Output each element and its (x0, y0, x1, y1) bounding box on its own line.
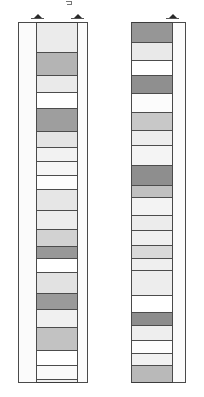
left-panel-bed-6 (37, 132, 77, 148)
left-panel-bed-10 (37, 190, 77, 211)
left-panel-bed-11 (37, 211, 77, 230)
right-panel-bed-20 (132, 341, 172, 354)
left-panel-bed-5 (37, 109, 77, 132)
left-panel-bed-1 (37, 23, 77, 53)
left-panel-bed-3 (37, 76, 77, 93)
right-panel-bed-14 (132, 246, 172, 259)
left-panel-bed-7 (37, 148, 77, 162)
right-panel-bed-7 (132, 131, 172, 146)
left-panel-bed-9 (37, 176, 77, 190)
left-panel-bed-13 (37, 247, 77, 259)
left-panel-bed-15 (37, 273, 77, 294)
right-panel-bed-19 (132, 326, 172, 341)
right-panel-bed-1 (132, 23, 172, 43)
right-panel-bed-22 (132, 366, 172, 383)
left-panel-bed-19 (37, 351, 77, 366)
right-panel-bed-13 (132, 231, 172, 246)
right-panel-bed-18 (132, 313, 172, 326)
right-panel-bed-15 (132, 259, 172, 271)
right-panel-bed-16 (132, 271, 172, 296)
right-panel-bed-9 (132, 166, 172, 186)
right-panel-bed-4 (132, 76, 172, 94)
marker-left-column-left-edge-icon (31, 12, 44, 19)
left-panel-bed-16 (37, 294, 77, 310)
right-panel-bed-2 (132, 43, 172, 61)
right-panel-bed-21 (132, 354, 172, 366)
right-panel-bed-17 (132, 296, 172, 313)
left-panel-bed-21 (37, 380, 77, 383)
right-panel-bed-5 (132, 94, 172, 113)
left-panel-bed-4 (37, 93, 77, 109)
left-panel-bed-14 (37, 259, 77, 273)
right-panel-bed-10 (132, 186, 172, 198)
left-panel-bed-8 (37, 162, 77, 176)
left-panel-bed-20 (37, 366, 77, 380)
right-panel-bed-3 (132, 61, 172, 76)
marker-left-column-right-edge-icon (71, 12, 84, 19)
left-panel-bed-18 (37, 328, 77, 351)
left-panel-bed-12 (37, 230, 77, 247)
stratigraphic-columns-figure (0, 0, 204, 397)
stray-tick-icon (66, 1, 73, 6)
right-panel-bed-6 (132, 113, 172, 131)
left-panel-bed-2 (37, 53, 77, 76)
left-panel-bed-17 (37, 310, 77, 328)
marker-right-column-right-edge-icon (166, 12, 179, 19)
right-panel-column (131, 22, 173, 383)
right-panel-bed-11 (132, 198, 172, 216)
right-panel-bed-12 (132, 216, 172, 231)
right-panel-bed-8 (132, 146, 172, 166)
left-panel-column (36, 22, 78, 383)
